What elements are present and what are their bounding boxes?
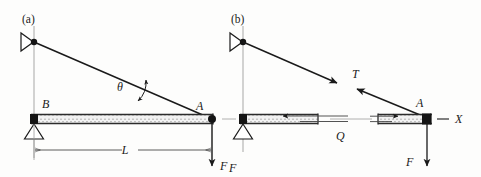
panel-b-label-force-left: F	[228, 161, 237, 175]
panel-b-tension-arrow-upper	[243, 42, 337, 83]
panel-a-label-a: A	[195, 99, 204, 113]
panel-b-caption: (b)	[231, 13, 245, 26]
panel-a-angle-arc	[138, 80, 146, 101]
panel-a-beam-body	[31, 115, 213, 124]
panel-a-caption: (a)	[22, 13, 35, 26]
panel-b-label-force-right: F	[405, 155, 414, 169]
engineering-diagram: (a) B A θ	[0, 0, 481, 177]
panel-a: (a) B A θ	[21, 13, 228, 173]
figure-container: (a) B A θ	[0, 0, 481, 177]
panel-a-anchor-node	[31, 39, 37, 45]
panel-b-label-tension: T	[352, 67, 360, 81]
panel-b-label-shear: Q	[336, 129, 345, 143]
panel-a-label-b: B	[42, 97, 50, 111]
panel-a-label-theta: θ	[117, 80, 123, 94]
panel-b-pin-support	[234, 124, 253, 139]
panel-b-label-axial: X	[454, 112, 463, 126]
panel-a-node-b	[30, 114, 38, 124]
panel-b-tension-arrow-lower	[357, 89, 425, 117]
panel-a-node-a	[208, 115, 216, 123]
panel-a-cable	[34, 42, 212, 119]
panel-b-node-b	[239, 114, 247, 124]
panel-a-label-span: L	[121, 143, 129, 157]
panel-b-label-a: A	[415, 96, 424, 110]
panel-b: (b) T Q	[222, 13, 463, 175]
panel-a-label-force: F	[219, 159, 228, 173]
